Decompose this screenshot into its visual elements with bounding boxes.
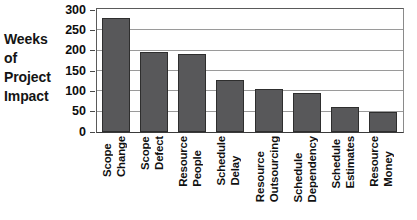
x-axis-category-word: Scope xyxy=(139,136,152,170)
x-axis-category-word: Outsourcing xyxy=(268,136,281,202)
y-axis-tick-label: 200 xyxy=(52,44,86,57)
y-axis-tick-label: 50 xyxy=(52,105,86,118)
gridline xyxy=(97,29,403,30)
bar xyxy=(331,107,359,132)
bar xyxy=(369,112,397,132)
bar xyxy=(293,93,321,132)
x-axis-category-word: Scope xyxy=(101,136,114,177)
y-axis-tick-label: 0 xyxy=(52,126,86,139)
x-axis-category-word: Money xyxy=(382,136,395,187)
x-axis-category-word: Defect xyxy=(153,136,166,170)
plot-area xyxy=(96,8,404,133)
y-axis-tick-label: 300 xyxy=(52,4,86,17)
x-axis-category-word: Schedule xyxy=(292,136,305,202)
y-axis-tick-mark xyxy=(90,71,95,72)
gridline xyxy=(97,50,403,51)
y-axis-tick-mark xyxy=(90,132,95,133)
y-axis-tick-label: 100 xyxy=(52,85,86,98)
bar xyxy=(255,89,283,132)
y-axis-tick-label: 250 xyxy=(52,24,86,37)
x-axis-category-word: Delay xyxy=(229,136,242,186)
x-axis-category-word: Resource xyxy=(254,136,267,202)
x-axis-category-word: Change xyxy=(115,136,128,177)
bar-chart: Weeks of Project Impact 3002502001501005… xyxy=(0,0,417,220)
x-axis-category-word: Dependency xyxy=(306,136,319,202)
x-axis-category-word: Schedule xyxy=(330,136,343,189)
x-axis-category-word: Resource xyxy=(368,136,381,187)
x-axis-category-labels: ScopeChangeScopeDefectResourcePeopleSche… xyxy=(96,136,404,220)
y-axis-tick-mark xyxy=(90,50,95,51)
bar xyxy=(102,18,130,132)
x-axis-category-word: People xyxy=(191,136,204,187)
bar xyxy=(140,52,168,132)
y-axis-tick-mark xyxy=(90,10,95,11)
y-axis-tick-mark xyxy=(90,30,95,31)
y-axis-tick-mark xyxy=(90,111,95,112)
x-axis-category-word: Resource xyxy=(177,136,190,187)
y-axis-tick-mark xyxy=(90,91,95,92)
y-axis-tick-label: 150 xyxy=(52,65,86,78)
x-axis-category-word: Estimates xyxy=(344,136,357,189)
x-axis-category-word: Schedule xyxy=(215,136,228,186)
bar xyxy=(216,80,244,132)
bar xyxy=(178,54,206,132)
